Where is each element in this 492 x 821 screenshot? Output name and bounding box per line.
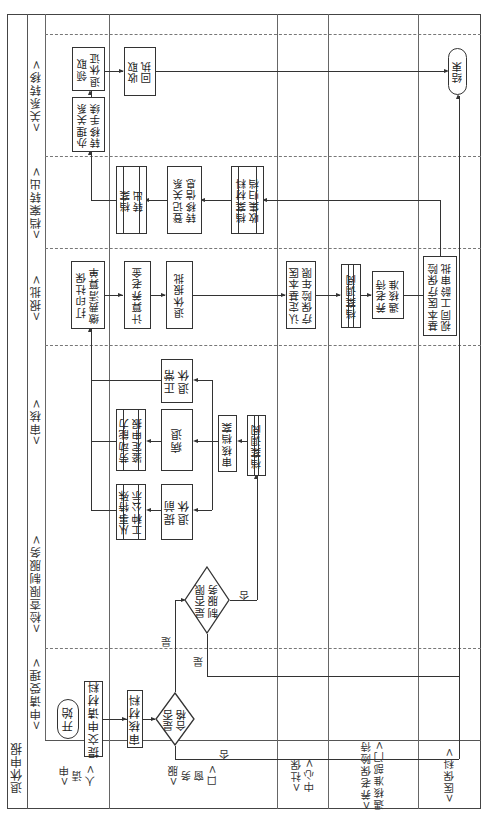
phase-relation-transfer: <关系转移>	[27, 36, 45, 156]
node-get-certificate: 领取 退休证	[72, 47, 105, 91]
label-restricted-yes: 是	[192, 652, 206, 671]
node-review-archive: 审核档案	[218, 415, 237, 472]
phase-approve: <报批>	[27, 250, 45, 345]
edge-restricted-yes-v	[207, 634, 208, 676]
node-end: 结束	[448, 48, 467, 95]
node-register-transfer: 登记关系 转移信息	[167, 166, 202, 234]
lane-social-security-center: <社保 中心>	[277, 742, 328, 808]
lane-divider-4	[418, 14, 419, 809]
lane-divider-3	[328, 14, 329, 809]
edge-special-conv	[91, 510, 116, 511]
edge-register-out	[147, 200, 167, 201]
node-calc-pension: 计算养老金	[124, 261, 151, 329]
edge-qualified-no-v	[175, 746, 176, 759]
node-archive-out: 档案 转出	[116, 166, 147, 234]
node-confirm-medical-years: 认定基本医 疗保险年限	[286, 261, 316, 329]
phase-separator-1	[45, 34, 481, 35]
node-submit-materials: 提交申请材料	[84, 681, 103, 757]
node-early-retire: 提前 退休	[161, 484, 193, 540]
arrow-head	[118, 293, 123, 297]
edge-to-sick	[196, 441, 212, 442]
arrow-head	[146, 508, 151, 512]
arrow-head	[237, 439, 242, 443]
label-qualified-no: 否	[218, 745, 232, 764]
node-sick-retire: 病退	[161, 409, 193, 471]
arrow-head	[146, 439, 151, 443]
edge-collect-register	[203, 200, 231, 201]
node-medical-age-approval: 基本医疗保险 视同工龄审批	[423, 256, 457, 336]
label-restricted-no: 否	[238, 586, 252, 605]
node-print-statement: 打印社保 缴费清算单	[71, 261, 105, 329]
phase-separator-3	[45, 248, 481, 249]
edge-restricted-yes	[207, 676, 459, 677]
edge-restricted-no	[257, 476, 258, 600]
phase-separator-5	[45, 648, 481, 649]
edge-medical-up	[440, 200, 441, 264]
node-archive-lookup: 档案调阅	[247, 415, 266, 476]
edge-out-left	[91, 200, 116, 201]
edge-ra-trunk	[212, 380, 213, 510]
edge-qualified-yes	[175, 600, 176, 692]
node-restricted-decision: 是否限 制服务	[184, 566, 230, 634]
node-labor-ability-appraisal: 劳动能力 鉴定申报	[116, 409, 146, 471]
node-receive-receipt: 收取 回执	[124, 47, 156, 96]
phase-separator-2	[45, 156, 481, 157]
edge-normal-conv	[91, 380, 161, 381]
edge-medical-collect	[265, 200, 440, 201]
edge-submit-confirm	[193, 295, 285, 296]
diagram-title: 退休申报	[7, 730, 27, 805]
edge-receipt-end	[156, 71, 445, 72]
edge-to-early	[196, 510, 212, 511]
lane-service-window: <服 务 窗 口>	[109, 742, 277, 808]
lane-divider-2	[277, 14, 278, 809]
phase-header-divider	[45, 14, 46, 740]
phase-separator-4	[45, 345, 481, 346]
edge-converge	[91, 329, 92, 510]
edge-out-up	[91, 152, 92, 200]
arrow-head	[193, 439, 198, 443]
lane-medical-insurance: <医保科>	[418, 742, 481, 808]
phase-accept: <申请受理>	[27, 650, 45, 738]
node-handle-transfer: 办理关系 转移手续	[72, 97, 105, 152]
node-retire-submit: 退休报批	[166, 261, 193, 329]
phase-review: <审核>	[27, 347, 45, 497]
node-special-work-notice: 从事特殊 工种公示	[116, 484, 146, 540]
edge-labor-conv	[91, 441, 116, 442]
node-qualified-decision: 是否 合格	[155, 692, 195, 746]
lane-header-divider	[45, 740, 481, 741]
node-archive-lookup-2: 档案调阅	[341, 264, 361, 328]
phase-check-restriction: <检查限制服务>	[27, 520, 45, 648]
edge-to-normal	[196, 380, 212, 381]
node-pension-approval: 养老待 遇核准	[372, 271, 404, 319]
edge-up-to-end	[459, 96, 460, 759]
node-review-materials: 审核材料	[127, 690, 143, 748]
arrow-head	[193, 508, 198, 512]
node-start: 开始	[57, 699, 79, 739]
label-qualified-yes: 是	[160, 632, 174, 651]
lane-divider-1	[109, 14, 110, 809]
node-archive-collect: 档案材料 收集归档	[231, 166, 264, 234]
arrow-head	[193, 378, 198, 382]
node-normal-retire: 正常 退休	[161, 359, 193, 403]
lane-pension-approval-dept: <养老保险待 遇核准部门>	[328, 742, 418, 808]
phase-archive-transfer-out: <档案转出>	[27, 158, 45, 248]
